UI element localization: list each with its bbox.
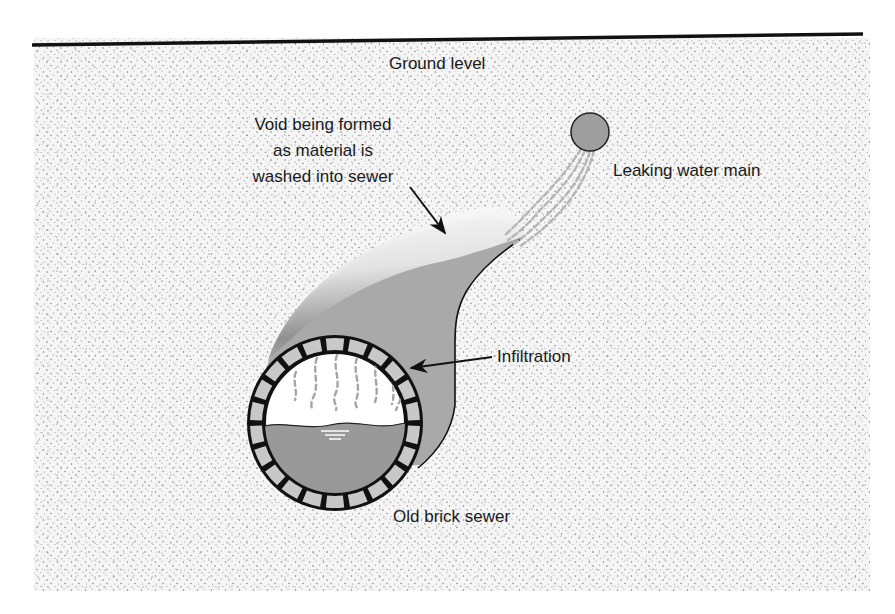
brick xyxy=(250,426,264,445)
brick xyxy=(326,338,344,350)
label-old-brick-sewer: Old brick sewer xyxy=(393,507,510,526)
label-void-line1: Void being formed xyxy=(254,115,391,134)
brick xyxy=(406,402,420,421)
label-infiltration: Infiltration xyxy=(497,347,571,366)
label-void-line2: as material is xyxy=(273,141,373,160)
water-main-pipe xyxy=(571,113,609,151)
label-void-line3: washed into sewer xyxy=(252,167,394,186)
diagram-canvas: Ground level Void being formed as materi… xyxy=(0,0,895,614)
label-water-main: Leaking water main xyxy=(613,161,760,180)
brick xyxy=(326,496,344,508)
brick xyxy=(250,402,264,421)
label-ground-level: Ground level xyxy=(389,54,485,73)
brick xyxy=(406,426,420,445)
brick-sewer xyxy=(247,335,423,511)
